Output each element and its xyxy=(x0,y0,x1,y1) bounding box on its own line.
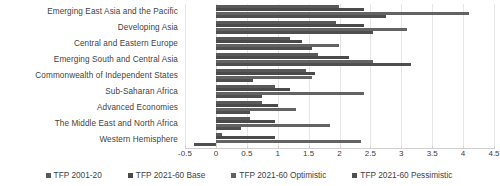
category-axis-labels: Emerging East Asia and the PacificDevelo… xyxy=(0,4,182,148)
bar xyxy=(216,63,411,66)
category-label: Advanced Economies xyxy=(97,100,178,116)
bar xyxy=(216,47,312,50)
gridline-4p5 xyxy=(494,4,495,148)
bars-container xyxy=(185,4,494,148)
legend-item[interactable]: TFP 2021-60 Pessimistic xyxy=(352,170,452,180)
bar xyxy=(216,31,374,34)
legend-label: TFP 2001-20 xyxy=(54,170,102,180)
category-label: Emerging South and Central Asia xyxy=(54,52,178,68)
bar-group xyxy=(185,20,494,36)
legend-item[interactable]: TFP 2021-60 Base xyxy=(128,170,206,180)
plot-area: Emerging East Asia and the PacificDevelo… xyxy=(0,0,498,150)
legend-swatch-icon xyxy=(231,173,236,178)
category-label: Western Hemisphere xyxy=(99,132,178,148)
tick-label: 2.5 xyxy=(365,149,376,158)
legend-swatch-icon xyxy=(352,173,357,178)
category-label: Sub-Saharan Africa xyxy=(105,84,178,100)
bar xyxy=(216,111,250,114)
bar-group xyxy=(185,116,494,132)
bar-group xyxy=(185,84,494,100)
legend-swatch-icon xyxy=(46,173,51,178)
bar xyxy=(194,143,216,146)
tick-label: 4 xyxy=(461,149,465,158)
bar-group xyxy=(185,4,494,20)
legend-label: TFP 2021-60 Optimistic xyxy=(239,170,326,180)
bar-group xyxy=(185,68,494,84)
tick-label: 0.5 xyxy=(241,149,252,158)
legend-label: TFP 2021-60 Pessimistic xyxy=(360,170,452,180)
bar xyxy=(216,15,386,18)
legend-label: TFP 2021-60 Base xyxy=(136,170,206,180)
bar-group xyxy=(185,36,494,52)
legend-swatch-icon xyxy=(128,173,133,178)
bar xyxy=(216,95,262,98)
bar-group xyxy=(185,52,494,68)
tick-label: 4.5 xyxy=(488,149,499,158)
legend-item[interactable]: TFP 2001-20 xyxy=(46,170,102,180)
chart-legend: TFP 2001-20TFP 2021-60 BaseTFP 2021-60 O… xyxy=(0,166,498,184)
category-label: Developing Asia xyxy=(118,20,178,36)
tick-label: 3.5 xyxy=(427,149,438,158)
category-label: Commonwealth of Independent States xyxy=(35,68,178,84)
category-label: Central and Eastern Europe xyxy=(74,36,178,52)
tick-label: 2 xyxy=(337,149,341,158)
category-label: The Middle East and North Africa xyxy=(55,116,178,132)
bar xyxy=(216,127,241,130)
tick-label: -0.5 xyxy=(178,149,192,158)
tick-label: 0 xyxy=(214,149,218,158)
bar xyxy=(216,140,361,143)
category-label: Emerging East Asia and the Pacific xyxy=(47,4,178,20)
tick-label: 1.5 xyxy=(303,149,314,158)
legend-item[interactable]: TFP 2021-60 Optimistic xyxy=(231,170,326,180)
bar-group xyxy=(185,100,494,116)
tick-label: 3 xyxy=(399,149,403,158)
value-axis-ticks: -0.500.511.522.533.544.5 xyxy=(185,149,494,163)
bar xyxy=(216,79,253,82)
tick-label: 1 xyxy=(275,149,279,158)
